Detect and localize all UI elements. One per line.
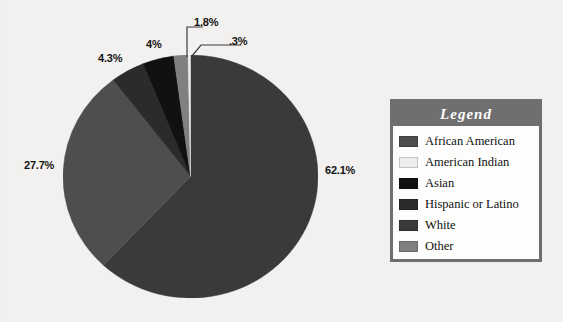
legend-title: Legend	[393, 102, 539, 126]
pie-label-hispanic-or-latino: 4.3%	[98, 52, 122, 64]
legend-swatch-american-indian	[399, 157, 418, 168]
pie-svg	[63, 55, 318, 298]
legend-label: African American	[425, 135, 515, 148]
legend-row[interactable]: American Indian	[399, 152, 539, 173]
pie-label-white: 62.1%	[325, 164, 355, 176]
pie-label-asian: 4%	[146, 38, 162, 50]
legend-row[interactable]: Other	[399, 236, 539, 257]
pie-chart	[63, 55, 318, 298]
legend-label: Asian	[425, 177, 454, 190]
legend-row[interactable]: White	[399, 215, 539, 236]
legend-swatch-other	[399, 241, 418, 252]
legend-swatch-white	[399, 220, 418, 231]
legend-label: White	[425, 219, 456, 232]
legend-swatch-asian	[399, 178, 418, 189]
legend-swatch-hispanic-or-latino	[399, 199, 418, 210]
legend-row[interactable]: Asian	[399, 173, 539, 194]
legend-items: African AmericanAmerican IndianAsianHisp…	[393, 126, 539, 257]
legend-row[interactable]: African American	[399, 131, 539, 152]
legend-swatch-african-american	[399, 136, 418, 147]
legend-label: Other	[425, 240, 453, 253]
legend-label: Hispanic or Latino	[425, 198, 519, 211]
legend-row[interactable]: Hispanic or Latino	[399, 194, 539, 215]
legend-box: Legend African AmericanAmerican IndianAs…	[390, 99, 542, 262]
pie-label-other: 1.8%	[194, 16, 218, 28]
legend-label: American Indian	[425, 156, 509, 169]
pie-label-african-american: 27.7%	[24, 159, 54, 171]
chart-canvas: 62.1% 27.7% 4.3% 4% 1.8% .3% Legend Afri…	[0, 0, 563, 322]
pie-label-american-indian: .3%	[229, 35, 247, 47]
leader-line-other	[187, 27, 203, 57]
